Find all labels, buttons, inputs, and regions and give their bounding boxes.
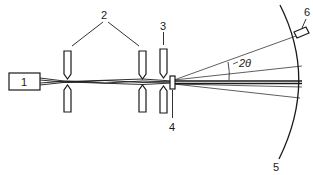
guard-slit-label: 3 <box>160 20 166 32</box>
diffracted-beams: 2θ <box>172 36 302 98</box>
detector-label: 6 <box>304 6 310 18</box>
sample-4: 4 <box>169 76 175 133</box>
film-arc-5: 5 <box>273 5 299 173</box>
slits-label: 2 <box>101 9 107 21</box>
slit-pair-2: 2 <box>64 9 146 112</box>
detector-6: 6 <box>294 6 310 38</box>
angle-label: 2θ <box>238 57 251 69</box>
source-label: 1 <box>21 76 27 88</box>
film-label: 5 <box>273 161 279 173</box>
guard-slit-3: 3 <box>160 20 167 113</box>
xray-source: 1 <box>9 73 40 90</box>
diffraction-diagram: 1 2 3 2θ 4 <box>0 0 313 175</box>
sample-label: 4 <box>169 121 175 133</box>
incident-beam <box>40 78 172 85</box>
